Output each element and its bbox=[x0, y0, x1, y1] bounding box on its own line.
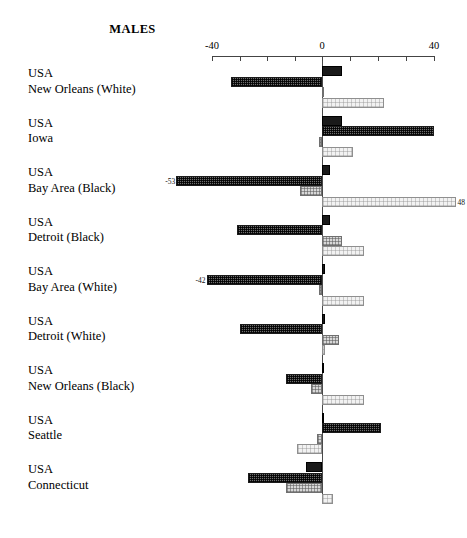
bar-series-4 bbox=[297, 444, 322, 454]
x-axis-tick bbox=[322, 56, 323, 61]
bar-group bbox=[0, 413, 467, 463]
bar-group bbox=[0, 462, 467, 512]
bar-series-3 bbox=[322, 335, 339, 345]
x-axis-tick bbox=[212, 56, 213, 61]
bar-row-group: USADetroit (Black) bbox=[0, 215, 467, 265]
bar-series-1 bbox=[322, 264, 325, 274]
bar-series-2 bbox=[322, 423, 381, 433]
bar-series-1 bbox=[322, 66, 342, 76]
bar-series-2 bbox=[237, 225, 322, 235]
bar-value-label: 48 bbox=[455, 198, 465, 208]
bar-series-1 bbox=[306, 462, 323, 472]
chart-title: MALES bbox=[0, 22, 366, 37]
bar-series-1 bbox=[322, 215, 330, 225]
bar-row-group: USABay Area (White)-42 bbox=[0, 264, 467, 314]
bar-series-3 bbox=[322, 87, 324, 97]
bar-series-3 bbox=[317, 434, 323, 444]
bar-series-1 bbox=[322, 116, 342, 126]
bar-row-group: USANew Orleans (White) bbox=[0, 66, 467, 116]
x-axis-tick-labels: -40040 bbox=[212, 40, 434, 60]
bar-series-1 bbox=[322, 314, 325, 324]
x-axis-tick bbox=[406, 56, 407, 61]
bar-series-3 bbox=[286, 483, 322, 493]
x-axis-tick-label: -40 bbox=[205, 40, 219, 51]
bar-group: -5348 bbox=[0, 165, 467, 215]
bar-row-group: USAConnecticut bbox=[0, 462, 467, 512]
bar-series-4 bbox=[322, 395, 364, 405]
bar-series-3 bbox=[300, 186, 322, 196]
bar-row-group: USAIowa bbox=[0, 116, 467, 166]
bar-series-4 bbox=[322, 345, 325, 355]
bar-series-3 bbox=[319, 285, 322, 295]
bar-series-2: -53 bbox=[176, 176, 322, 186]
bar-group bbox=[0, 363, 467, 413]
bar-series-2 bbox=[240, 324, 323, 334]
chart-root: MALES -40040 USANew Orleans (White)USAIo… bbox=[0, 0, 467, 538]
bar-series-2: -42 bbox=[207, 275, 323, 285]
bar-row-group: USABay Area (Black)-5348 bbox=[0, 165, 467, 215]
bar-series-1 bbox=[322, 363, 324, 373]
x-axis-tick bbox=[378, 56, 379, 61]
bar-group bbox=[0, 314, 467, 364]
x-axis-tick bbox=[350, 56, 351, 61]
bar-series-2 bbox=[248, 473, 322, 483]
bar-series-4 bbox=[322, 147, 353, 157]
x-axis-tick bbox=[267, 56, 268, 61]
bar-series-2 bbox=[231, 77, 322, 87]
bar-group bbox=[0, 116, 467, 166]
x-axis-tick bbox=[434, 56, 435, 61]
bar-series-1 bbox=[322, 165, 330, 175]
bar-group bbox=[0, 215, 467, 265]
bar-series-4 bbox=[322, 246, 364, 256]
bar-row-group: USASeattle bbox=[0, 413, 467, 463]
x-axis-tick bbox=[295, 56, 296, 61]
bar-series-1 bbox=[322, 413, 324, 423]
bar-series-4 bbox=[322, 296, 364, 306]
x-axis-line bbox=[212, 56, 434, 57]
bar-series-2 bbox=[322, 126, 434, 136]
bar-group bbox=[0, 66, 467, 116]
bar-series-4 bbox=[322, 494, 333, 504]
bar-series-4: 48 bbox=[322, 197, 456, 207]
bar-series-4 bbox=[322, 98, 384, 108]
x-axis-tick-label: 0 bbox=[319, 40, 324, 51]
bar-series-2 bbox=[286, 374, 322, 384]
bar-series-3 bbox=[319, 137, 322, 147]
bar-row-group: USADetroit (White) bbox=[0, 314, 467, 364]
bar-series-3 bbox=[311, 384, 322, 394]
x-axis-tick bbox=[240, 56, 241, 61]
bar-group: -42 bbox=[0, 264, 467, 314]
bar-value-label: -53 bbox=[165, 177, 177, 187]
bar-value-label: -42 bbox=[196, 276, 208, 286]
bar-series-3 bbox=[322, 236, 342, 246]
x-axis-tick-label: 40 bbox=[429, 40, 440, 51]
bar-row-group: USANew Orleans (Black) bbox=[0, 363, 467, 413]
